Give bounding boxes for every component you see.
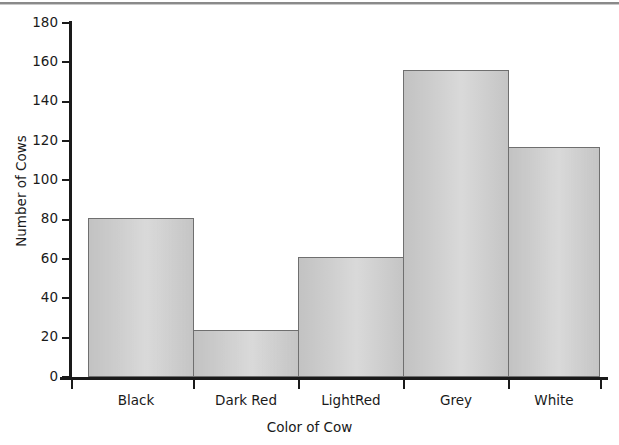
x-category-label-grey: Grey (403, 392, 509, 408)
y-tick-label-40: 40 (22, 291, 58, 305)
x-tick-mark-2 (298, 380, 300, 389)
y-tick-label-20: 20 (22, 330, 58, 344)
x-category-label-white: White (504, 392, 604, 408)
bar-white[interactable] (508, 147, 600, 377)
y-tick-label-160: 160 (22, 55, 58, 69)
bar-chart-figure: 180 160 140 120 100 80 60 40 20 0 Black … (0, 0, 619, 445)
x-tick-mark-0 (71, 380, 73, 389)
y-tick-label-0: 0 (22, 370, 58, 384)
x-category-label-lightred: LightRed (298, 392, 404, 408)
bar-dark-red[interactable] (193, 330, 299, 377)
bar-black[interactable] (88, 218, 194, 377)
y-axis-title: Number of Cows (13, 111, 29, 271)
x-category-label-dark-red: Dark Red (193, 392, 299, 408)
plot-area (72, 23, 600, 377)
x-tick-mark-3 (403, 380, 405, 389)
x-axis-title: Color of Cow (0, 419, 619, 435)
x-tick-mark-5 (600, 380, 602, 389)
x-axis-line (60, 377, 608, 380)
bar-lightred[interactable] (298, 257, 404, 377)
x-category-label-black: Black (78, 392, 194, 408)
x-tick-mark-1 (193, 380, 195, 389)
x-tick-mark-4 (508, 380, 510, 389)
y-tick-label-140: 140 (22, 94, 58, 108)
bar-grey[interactable] (403, 70, 509, 377)
y-tick-label-180: 180 (22, 16, 58, 30)
